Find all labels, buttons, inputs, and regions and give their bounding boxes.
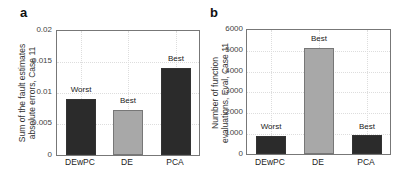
y-tick-b: 1000 [213, 128, 243, 137]
y-tick-a: 0.02 [22, 25, 52, 34]
y-tick-b: 4000 [213, 66, 243, 75]
bar-annotation-best: Best [347, 122, 387, 131]
bar-pca [161, 68, 191, 155]
y-tick-a: 0 [22, 150, 52, 159]
y-tick-b: 3000 [213, 86, 243, 95]
bar-annotation-worst: Worst [251, 122, 291, 131]
bar-dewpc [256, 136, 286, 154]
bar-de [113, 110, 143, 155]
bar-annotation-best: Best [299, 34, 339, 43]
x-tick-a: PCA [155, 157, 195, 167]
plot-area-b: Worst Best Best [246, 29, 391, 155]
bar-dewpc [66, 99, 96, 155]
x-tick-a: DE [107, 157, 147, 167]
y-tick-b: 5000 [213, 45, 243, 54]
y-tick-b: 6000 [213, 24, 243, 33]
y-tick-b: 0 [213, 149, 243, 158]
bar-annotation-best: Best [108, 96, 148, 105]
y-tick-a: 0.01 [22, 87, 52, 96]
x-tick-b: DEwPC [250, 157, 290, 167]
bar-annotation-worst: Worst [61, 85, 101, 94]
x-tick-b: DE [298, 157, 338, 167]
plot-area-a: Worst Best Best [56, 30, 200, 156]
bar-pca [352, 135, 382, 154]
x-tick-a: DEwPC [60, 157, 100, 167]
panel-label-a: a [20, 5, 27, 20]
x-tick-b: PCA [346, 157, 386, 167]
y-tick-b: 2000 [213, 107, 243, 116]
bar-de [304, 48, 334, 154]
bar-annotation-best: Best [156, 54, 196, 63]
y-tick-a: 0.015 [22, 56, 52, 65]
y-tick-a: 0.005 [22, 118, 52, 127]
panel-label-b: b [210, 5, 218, 20]
